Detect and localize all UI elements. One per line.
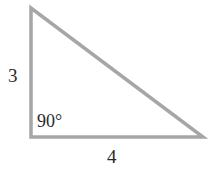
triangle-diagram [0,0,213,170]
horizontal-side-length-label: 4 [107,147,117,166]
vertical-side-length-label: 3 [8,66,18,85]
right-angle-label: 90° [37,112,62,130]
